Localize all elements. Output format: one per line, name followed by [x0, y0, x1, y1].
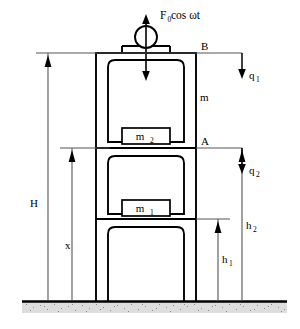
- dof-q1-label: q: [249, 69, 255, 81]
- dof-q2-label: q: [249, 164, 255, 176]
- mass-block-m1: [122, 200, 170, 216]
- force-label: F: [160, 9, 166, 21]
- mass-m2-label: m: [136, 130, 145, 142]
- mass-m2-subscript: 2: [150, 136, 154, 145]
- diagram-canvas: m 2 m 1 F 0 cos ωt B A m H x: [0, 0, 300, 329]
- point-a-label: A: [201, 135, 209, 147]
- column-mass-label: m: [200, 91, 209, 103]
- ground-hatch-band: [22, 302, 287, 313]
- dimension-h2-label: h: [246, 219, 252, 231]
- canvas-background: [0, 0, 300, 329]
- dof-q1-subscript: 1: [256, 75, 260, 84]
- dimension-h1-subscript: 1: [229, 259, 233, 268]
- mass-m1-subscript: 1: [150, 208, 154, 217]
- ground-group: [22, 302, 287, 314]
- dimension-h2-subscript: 2: [253, 225, 257, 234]
- frame-diagram: m 2 m 1 F 0 cos ωt B A m H x: [0, 0, 300, 329]
- mass-m1-label: m: [136, 202, 145, 214]
- point-b-label: B: [201, 40, 208, 52]
- mass-block-m2: [122, 128, 170, 144]
- dimension-H-label: H: [30, 197, 38, 209]
- dimension-h1-label: h: [222, 253, 228, 265]
- dimension-x-label: x: [65, 239, 71, 251]
- dof-q2-subscript: 2: [256, 170, 260, 179]
- force-label-rest: cos ωt: [171, 9, 201, 21]
